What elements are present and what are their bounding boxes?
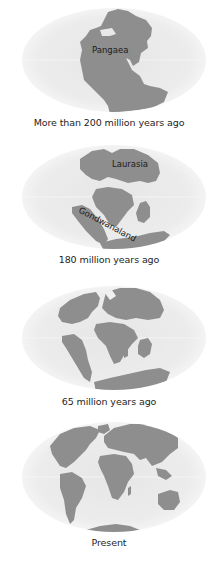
caption-180mya: 180 million years ago	[0, 254, 218, 265]
panel-65mya: 65 million years ago	[0, 278, 218, 413]
caption-present: Present	[0, 537, 218, 548]
panel-present: Present	[0, 418, 218, 561]
globe-map-pangaea: Pangaea	[0, 0, 218, 118]
label-laurasia: Laurasia	[112, 159, 148, 169]
globe-map-180mya: Laurasia Gondwanaland	[0, 137, 218, 255]
caption-65mya: 65 million years ago	[0, 396, 218, 407]
caption-pangaea: More than 200 million years ago	[0, 117, 218, 128]
panel-laurasia-gondwanaland: Laurasia Gondwanaland 180 million years …	[0, 137, 218, 272]
globe-map-present	[0, 418, 218, 538]
panel-pangaea: Pangaea More than 200 million years ago	[0, 0, 218, 135]
label-pangaea: Pangaea	[92, 45, 128, 55]
globe-map-65mya	[0, 278, 218, 396]
landmass-madagascar	[124, 346, 128, 358]
